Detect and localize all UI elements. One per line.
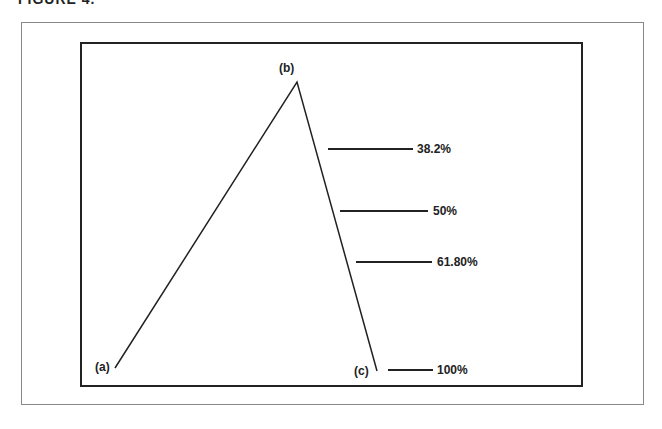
point-c-label: (c) — [354, 364, 369, 378]
level-label-38: 38.2% — [417, 142, 451, 156]
level-label-100: 100% — [437, 363, 468, 377]
point-a-label: (a) — [95, 360, 110, 374]
level-label-61: 61.80% — [437, 255, 478, 269]
level-label-50: 50% — [433, 204, 457, 218]
point-b-label: (b) — [279, 61, 294, 75]
price-swing-line — [115, 82, 377, 371]
